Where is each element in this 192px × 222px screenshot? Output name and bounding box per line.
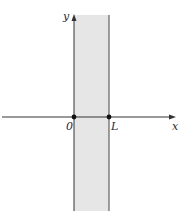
shaded-strip — [74, 15, 109, 211]
y-axis-label: y — [62, 10, 70, 23]
strip-diagram: y x 0 L — [0, 0, 192, 222]
origin-label: 0 — [66, 120, 73, 133]
x-axis-arrow-icon — [169, 115, 176, 120]
origin-point — [72, 115, 77, 120]
L-label: L — [110, 120, 118, 133]
x-axis-label: x — [172, 120, 179, 133]
point-L — [107, 115, 112, 120]
